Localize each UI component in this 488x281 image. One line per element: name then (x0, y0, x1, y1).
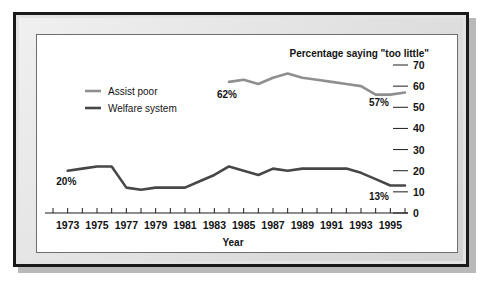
x-axis-tick-label: 1989 (291, 219, 315, 231)
x-axis-tick-label: 1993 (349, 219, 373, 231)
x-axis-tick-label: 1985 (232, 219, 256, 231)
y-axis-tick-label: 10 (413, 186, 425, 198)
x-axis-tick-label: 1995 (379, 219, 403, 231)
x-axis-tick-label: 1975 (85, 219, 109, 231)
y-axis-tick-label: 0 (413, 207, 419, 219)
figure-outer-border: 010203040506070 197319751977197919811983… (13, 12, 469, 267)
y-axis-tick-label: 20 (413, 165, 425, 177)
data-point-label: 57% (369, 97, 389, 108)
x-axis-tick-label: 1973 (56, 219, 80, 231)
series-line (229, 73, 405, 94)
y-axis-tick-label: 50 (413, 101, 425, 113)
data-point-label: 13% (369, 191, 389, 202)
x-axis-tick-label: 1987 (261, 219, 285, 231)
x-axis-tick-label: 1977 (115, 219, 139, 231)
legend-label: Welfare system (108, 103, 177, 114)
y-axis-tick-label: 60 (413, 80, 425, 92)
x-axis-tick-label: 1979 (144, 219, 168, 231)
y-axis-tick-label: 70 (413, 59, 425, 71)
x-axis-tick-label: 1991 (320, 219, 344, 231)
figure-root: 010203040506070 197319751977197919811983… (0, 0, 488, 281)
y-axis-tick-label: 30 (413, 144, 425, 156)
data-point-label: 20% (56, 176, 76, 187)
legend: Assist poorWelfare system (85, 86, 177, 114)
x-axis-tick-label: 1983 (203, 219, 227, 231)
x-axis-title: Year (222, 237, 243, 248)
x-axis-group: 1973197519771979198119831985198719891991… (45, 208, 408, 231)
line-chart: 010203040506070 197319751977197919811983… (37, 35, 457, 252)
y-axis-tick-group: 010203040506070 (393, 59, 425, 219)
y-axis-tick-label: 40 (413, 122, 425, 134)
x-axis-tick-label: 1981 (173, 219, 197, 231)
figure-mat: 010203040506070 197319751977197919811983… (19, 18, 463, 261)
legend-label: Assist poor (108, 86, 158, 97)
chart-title: Percentage saying "too little" (289, 48, 429, 59)
annotation-group: 20%62%57%13% (56, 89, 389, 202)
series-line (68, 166, 405, 189)
chart-panel: 010203040506070 197319751977197919811983… (36, 34, 458, 253)
data-point-label: 62% (217, 89, 237, 100)
